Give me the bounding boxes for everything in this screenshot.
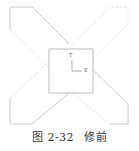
- bottom-right-arm-outline: [93, 70, 128, 124]
- bottom-left-arm-outline: [10, 93, 69, 124]
- dashed-diagonal-right-lower: [72, 93, 110, 124]
- caption-title: 修前: [84, 131, 107, 144]
- axis-label-vertical: T: [69, 52, 72, 58]
- dashed-diagonal-left-lower: [10, 62, 49, 98]
- figure-caption: 图 2-32修前: [0, 128, 139, 144]
- caption-number: 图 2-32: [32, 131, 74, 144]
- axis-label-horizontal: E: [84, 67, 88, 73]
- dashed-diagonal-left-upper: [10, 30, 49, 68]
